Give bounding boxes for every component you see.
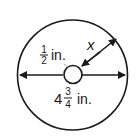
x-label: x bbox=[86, 36, 95, 53]
inner-circle bbox=[64, 66, 82, 84]
x-arrow-in bbox=[82, 52, 100, 66]
diam-unit: in. bbox=[77, 91, 92, 107]
circle-diagram: 1 2 in. x 4 3 4 in. bbox=[0, 0, 136, 137]
diam-den: 4 bbox=[65, 99, 71, 110]
half-den: 2 bbox=[41, 55, 47, 66]
diam-whole: 4 bbox=[54, 90, 62, 107]
half-unit: in. bbox=[51, 47, 66, 63]
diam-num: 3 bbox=[65, 86, 71, 97]
half-num: 1 bbox=[41, 44, 47, 55]
